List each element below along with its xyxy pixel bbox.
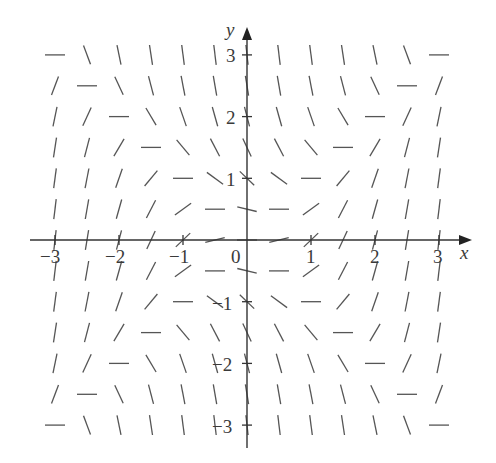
slope-segment	[84, 416, 91, 435]
slope-segment	[308, 354, 315, 373]
slope-segment	[274, 324, 283, 342]
slope-segment	[438, 138, 441, 158]
slope-segment	[436, 385, 443, 404]
slope-segment	[115, 77, 123, 95]
slope-segment	[308, 107, 315, 126]
y-tick-label-3: 3	[226, 46, 236, 65]
slope-segment	[116, 169, 123, 188]
slope-segment	[338, 108, 348, 125]
slope-segment	[117, 415, 121, 435]
slope-segment	[177, 140, 190, 155]
slope-segment	[53, 354, 57, 374]
slope-segment	[342, 45, 345, 65]
y-tick-label-neg3: −3	[212, 417, 232, 436]
slope-segment	[149, 385, 154, 404]
x-tick-label-1: 1	[306, 247, 316, 266]
slope-segment	[373, 45, 377, 65]
slope-segment	[54, 138, 57, 158]
slope-segment	[145, 294, 158, 309]
slope-segment	[310, 45, 313, 65]
slope-segment	[212, 107, 217, 126]
slope-segment	[405, 261, 408, 281]
slope-segment	[54, 199, 56, 219]
slope-segment	[210, 139, 219, 157]
slope-segment	[436, 76, 443, 95]
slope-segment	[276, 107, 281, 126]
slope-segment	[84, 46, 91, 65]
slope-segment	[438, 199, 440, 219]
slope-segment	[405, 199, 408, 219]
slope-segment	[277, 76, 280, 96]
slope-segment	[146, 200, 155, 218]
slope-segment	[437, 107, 441, 127]
y-axis-label: y	[226, 20, 234, 39]
axes	[30, 27, 472, 448]
slope-segment	[85, 261, 88, 281]
x-tick-label-neg3: −3	[40, 247, 60, 266]
x-tick-label-neg2: −2	[105, 247, 125, 266]
slope-segment	[338, 355, 348, 372]
slope-segment	[372, 200, 377, 219]
slope-segment	[437, 354, 441, 374]
slope-segment	[150, 415, 153, 435]
slope-segment	[309, 76, 313, 96]
slope-segment	[403, 108, 411, 126]
y-tick-label-neg2: −2	[212, 355, 232, 374]
slope-segment	[309, 384, 313, 404]
slope-segment	[341, 76, 346, 95]
slope-segment	[52, 385, 59, 404]
slope-segment	[405, 292, 409, 312]
slope-segment	[150, 45, 153, 65]
slope-segment	[372, 169, 379, 188]
slope-segment	[114, 139, 124, 156]
slope-segment	[180, 107, 187, 126]
slope-segment	[370, 324, 380, 341]
slope-segment	[276, 354, 281, 373]
slope-segment	[278, 45, 280, 65]
slope-segment	[149, 76, 154, 95]
slope-segment	[305, 140, 318, 155]
slope-segment	[145, 171, 158, 186]
slope-segment	[181, 384, 185, 404]
y-tick-label-1: 1	[226, 170, 236, 189]
slope-segment	[338, 200, 347, 218]
slope-segment	[310, 415, 313, 435]
slope-segment	[274, 139, 283, 157]
slope-segment	[182, 415, 185, 435]
slope-segment	[146, 108, 156, 125]
slope-segment	[214, 45, 216, 65]
slope-segment	[146, 262, 155, 280]
slope-segment	[85, 138, 90, 157]
slope-segment	[438, 292, 441, 312]
slope-segment	[405, 169, 409, 189]
slope-segment	[277, 384, 280, 404]
slope-segment	[405, 323, 410, 342]
slope-segment	[52, 76, 59, 95]
slope-segment	[371, 77, 379, 95]
slope-segment	[83, 108, 91, 126]
slope-segment	[177, 325, 190, 340]
slope-segment	[85, 292, 89, 312]
slope-segment	[405, 138, 410, 157]
slope-segment	[54, 323, 57, 343]
x-tick-label-2: 2	[370, 247, 380, 266]
slope-segment	[182, 45, 185, 65]
slope-segment	[207, 172, 223, 184]
slope-segment	[337, 171, 350, 186]
y-axis-arrow-icon	[242, 27, 252, 40]
slope-segment	[116, 292, 123, 311]
slope-segment	[210, 324, 219, 342]
slope-segment	[438, 323, 441, 343]
slope-segment	[146, 355, 156, 372]
y-tick-label-neg1: −1	[212, 294, 232, 313]
slope-segment	[404, 416, 411, 435]
slope-segment	[85, 323, 90, 342]
x-axis-label: x	[460, 243, 468, 262]
slope-segment	[53, 107, 57, 127]
slope-segment	[342, 415, 345, 435]
slope-segment	[54, 292, 57, 312]
origin-label: 0	[231, 247, 241, 266]
slope-segment	[116, 200, 121, 219]
slope-segment	[404, 46, 411, 65]
slope-segment	[338, 262, 347, 280]
